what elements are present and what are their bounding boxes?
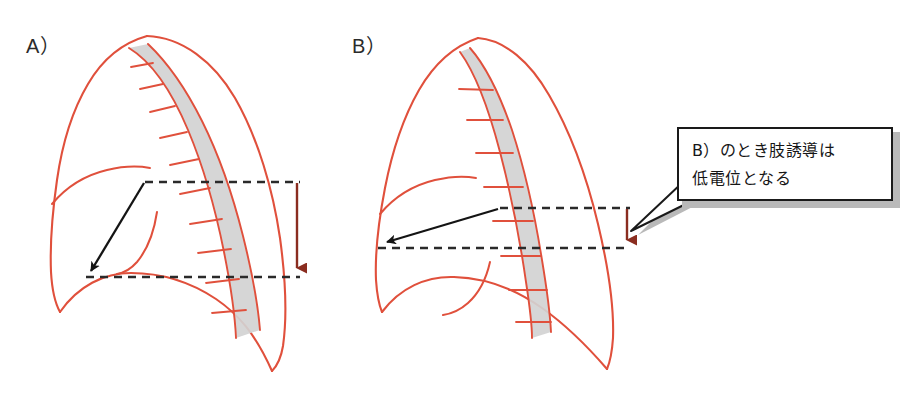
panel-a-pointer-arrow — [91, 183, 144, 271]
callout-text: B）のとき肢誘導は 低電位となる — [692, 137, 888, 193]
panel-a-illustration — [51, 36, 300, 371]
panel-a-left-lung-outline — [51, 36, 147, 312]
callout-box: B）のとき肢誘導は 低電位となる — [677, 127, 893, 201]
panel-b-diaphragm-outline — [382, 277, 607, 369]
panel-b-illustration — [376, 38, 630, 369]
panel-b-label: B） — [352, 30, 386, 59]
panel-a-cardiac-lower-curve — [117, 212, 157, 274]
panel-b-cardiac-upper-curve — [380, 177, 476, 214]
panel-a-label: A） — [26, 30, 60, 59]
panel-b-cardiac-lower-curve — [443, 262, 490, 315]
panel-b-rib-band-fill — [460, 48, 551, 338]
figure-canvas: A） B） B）のとき肢誘導は 低電位となる — [0, 0, 909, 397]
panel-b-pointer-arrow — [387, 209, 498, 242]
callout-annotation: B）のとき肢誘導は 低電位となる — [677, 127, 897, 204]
panel-b-left-lung-outline — [376, 38, 478, 312]
